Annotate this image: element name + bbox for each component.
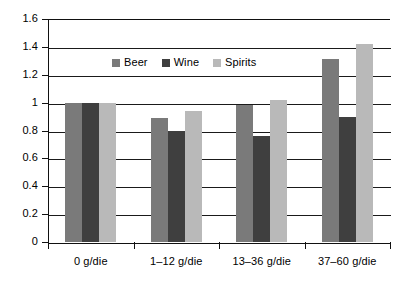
x-axis-label-1: 0 g/die — [48, 255, 134, 267]
y-axis-label-wrap: 1.2 — [0, 69, 38, 80]
gridline-1 — [49, 104, 391, 105]
legend-item-beer: Beer — [112, 57, 148, 68]
y-axis-label-wrap: 0 — [0, 236, 38, 247]
x-tick-1 — [134, 242, 135, 249]
x-tick-3 — [305, 242, 306, 249]
y-axis-label: 1 — [4, 97, 38, 108]
y-axis-label-wrap: 0.2 — [0, 208, 38, 219]
legend-label: Spirits — [225, 57, 256, 68]
y-axis-label-wrap: 1.6 — [0, 13, 38, 24]
legend-label: Beer — [124, 57, 148, 68]
x-axis-label-3: 13–36 g/die — [219, 255, 305, 267]
x-tick-0 — [48, 242, 49, 249]
y-axis-label: 0.6 — [4, 152, 38, 163]
legend-swatch-spirits-icon — [213, 59, 221, 67]
y-axis-label: 0 — [4, 236, 38, 247]
y-axis-label: 1.4 — [4, 41, 38, 52]
y-axis-label-wrap: 0.8 — [0, 125, 38, 136]
x-tick-2 — [219, 242, 220, 249]
gridline-1.2 — [49, 76, 391, 77]
y-axis-label: 0.4 — [4, 180, 38, 191]
gridline-0.2 — [49, 215, 391, 216]
legend-label: Wine — [174, 57, 199, 68]
x-axis-label-4: 37–60 g/die — [305, 255, 391, 267]
bar-chart: 00.20.40.60.811.21.41.6 0 g/die1–12 g/di… — [0, 0, 407, 282]
y-axis-label-wrap: 1.4 — [0, 41, 38, 52]
y-axis-label: 0.2 — [4, 208, 38, 219]
gridline-1.4 — [49, 48, 391, 49]
gridline-0.4 — [49, 187, 391, 188]
x-tick-4 — [390, 242, 391, 249]
y-axis-label-wrap: 1 — [0, 97, 38, 108]
gridline-0.8 — [49, 132, 391, 133]
legend-item-spirits: Spirits — [213, 57, 256, 68]
y-axis-label: 0.8 — [4, 125, 38, 136]
y-axis-label-wrap: 0.6 — [0, 152, 38, 163]
legend-swatch-wine-icon — [162, 59, 170, 67]
y-axis-label-wrap: 0.4 — [0, 180, 38, 191]
legend-swatch-beer-icon — [112, 59, 120, 67]
legend-item-wine: Wine — [162, 57, 199, 68]
gridline-0.6 — [49, 159, 391, 160]
plot-area — [48, 19, 390, 242]
gridline-0 — [49, 243, 391, 244]
y-axis-label: 1.2 — [4, 69, 38, 80]
x-axis-label-2: 1–12 g/die — [134, 255, 220, 267]
chart-legend: BeerWineSpirits — [110, 56, 258, 69]
y-axis-label: 1.6 — [4, 13, 38, 24]
